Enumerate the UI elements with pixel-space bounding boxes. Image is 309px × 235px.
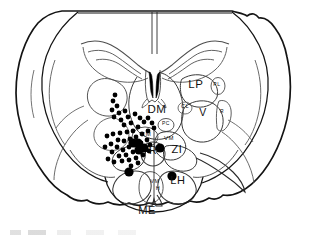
injection-site-small [122,123,127,128]
anatomical-label-me: ME [138,204,156,216]
injection-site-small [125,130,130,135]
injection-site-small [131,129,136,134]
injection-site-large [124,167,133,176]
anatomical-label-cm: CM [141,131,152,137]
anatomical-label-vmh1: VM [150,178,159,184]
anatomical-label-v: V [199,106,207,118]
anatomical-label-vmh2: H [156,185,161,191]
injection-site-small [121,148,126,153]
injection-site-small [109,142,114,147]
injection-site-small [106,157,111,162]
injection-site-small [119,118,124,123]
injection-site-small [122,139,127,144]
anatomical-label-lp: LP [188,78,203,90]
anatomical-label-pc: PC [162,120,170,126]
injection-site-small [110,150,115,155]
injection-site-small [103,145,108,150]
injection-site-small [129,121,134,126]
anatomical-label-lh: LH [170,174,185,186]
injection-site-small [117,154,122,159]
injection-site-small [117,111,122,116]
anatomical-label-vm: VM [164,135,174,141]
injection-site-small [105,134,110,139]
anatomical-label-r2: R [220,108,224,114]
injection-site-small [138,116,143,121]
injection-site-small [150,121,155,126]
injection-site-small [146,116,151,121]
injection-site-small [116,138,121,143]
injection-site-small [152,126,157,131]
injection-site-small [124,153,129,158]
injection-site-small [126,115,131,120]
injection-site-small [134,156,139,161]
anatomical-label-cl: CL [181,103,189,109]
injection-site-small [120,159,125,164]
injection-site-small [127,158,132,163]
brain-atlas-figure: DMLPPLCLVRPCVMCMRZILHVMHME [0,0,309,235]
figure-caption-partial [10,230,190,235]
injection-site-small [142,120,147,125]
injection-site-large [128,138,137,147]
injection-site-small [115,104,120,109]
injection-site-small [115,145,120,150]
anatomical-label-pl: PL [213,81,220,87]
injection-site-small [123,109,128,114]
injection-site-small [111,132,116,137]
injection-site-small [145,138,150,143]
injection-site-large [134,145,143,154]
injection-site-small [111,99,116,104]
anatomical-label-r: R [149,144,157,156]
anatomical-label-zi: ZI [172,143,183,155]
injection-site-small [110,108,115,113]
injection-site-small [136,125,141,130]
injection-site-small [118,131,123,136]
injection-site-small [112,160,117,165]
injection-site-small [113,93,118,98]
injection-site-small [112,115,117,120]
coronal-section-drawing: DMLPPLCLVRPCVMCMRZILHVMHME [0,0,309,235]
injection-site-small [136,161,141,166]
anatomical-label-dm: DM [147,103,166,115]
injection-site-small [133,112,138,117]
